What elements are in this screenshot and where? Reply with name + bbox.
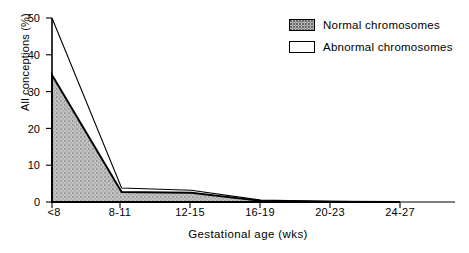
x-axis-tick-labels: <8 8-11 12-15 16-19 20-23 24-27	[0, 206, 469, 222]
legend-label: Normal chromosomes	[323, 19, 440, 31]
legend-swatch-white-box	[289, 41, 315, 53]
x-tick-label: 8-11	[109, 206, 131, 218]
chart-legend: Normal chromosomes Abnormal chromosomes	[289, 14, 469, 58]
x-axis-title: Gestational age (wks)	[40, 228, 456, 240]
x-tick-label: 24-27	[385, 206, 415, 218]
legend-label: Abnormal chromosomes	[323, 41, 453, 53]
series-area-normal-chromosomes	[52, 75, 400, 202]
chart-figure: All conceptions (%) 50 40 30 20 10 0	[0, 0, 469, 253]
x-tick-label: 16-19	[245, 206, 275, 218]
legend-item-normal-chromosomes: Normal chromosomes	[289, 14, 469, 36]
legend-swatch-stippled-box	[289, 19, 315, 31]
x-tick-label: 20-23	[315, 206, 345, 218]
x-tick-label: <8	[47, 206, 60, 218]
x-tick-label: 12-15	[175, 206, 205, 218]
legend-item-abnormal-chromosomes: Abnormal chromosomes	[289, 36, 469, 58]
